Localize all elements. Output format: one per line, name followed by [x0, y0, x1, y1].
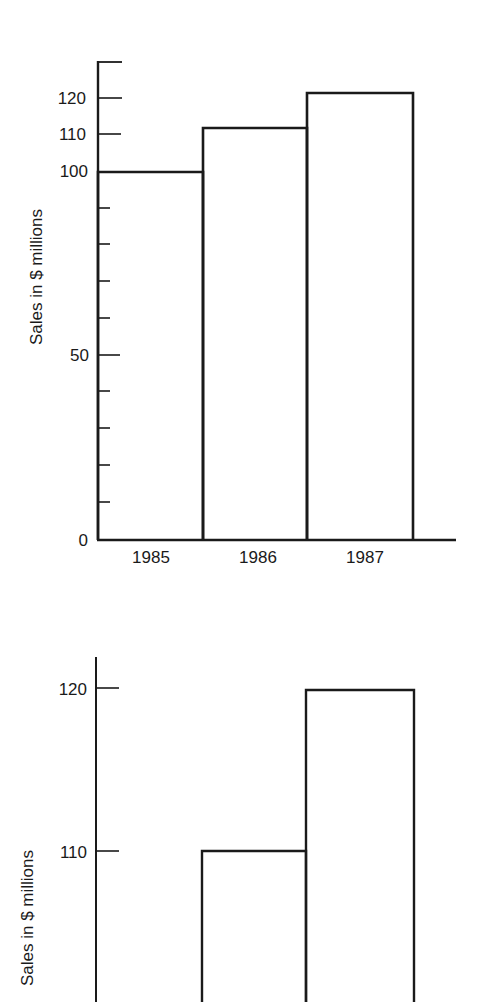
bottom-tick-label-110: 110: [60, 843, 87, 862]
tick-label-0: 0: [79, 531, 88, 550]
bottom-y-axis-title: Sales in $ millions: [18, 850, 37, 986]
category-label-1986: 1986: [239, 548, 277, 567]
figure-canvas: 120 110 100 50 0 1985 1986 1987 Sales in…: [0, 0, 490, 1002]
bottom-bar-1986: [202, 851, 306, 1002]
bar-1985: [98, 172, 203, 540]
top-chart: 120 110 100 50 0 1985 1986 1987 Sales in…: [27, 61, 456, 567]
tick-label-50: 50: [70, 346, 89, 365]
tick-label-100: 100: [60, 162, 88, 181]
category-label-1985: 1985: [132, 548, 170, 567]
top-y-axis-title: Sales in $ millions: [27, 209, 46, 345]
bar-1986: [203, 128, 307, 540]
bar-1987: [307, 93, 413, 540]
bottom-bar-1987: [306, 690, 414, 1002]
bottom-tick-label-120: 120: [59, 680, 87, 699]
tick-label-110: 110: [59, 125, 86, 144]
tick-label-120: 120: [58, 89, 86, 108]
category-label-1987: 1987: [346, 548, 384, 567]
bottom-chart: 120 110 Sales in $ millions: [18, 657, 414, 1002]
